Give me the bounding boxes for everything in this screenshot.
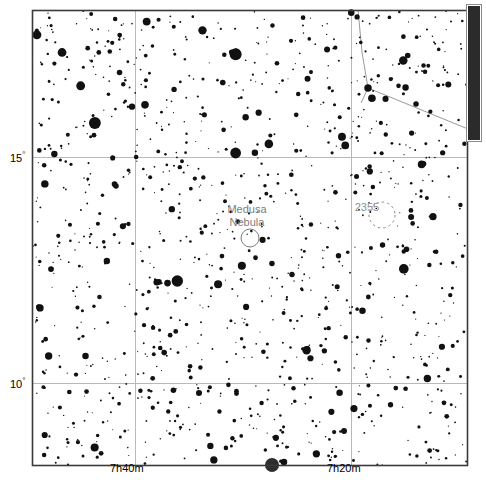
star-marker [34,244,37,247]
star-marker [293,399,296,402]
star-marker [460,43,462,45]
star-marker [182,424,184,426]
star-marker [309,277,310,278]
star-marker [147,307,149,309]
star-marker [39,123,41,125]
star-marker [140,251,141,252]
star-marker [305,155,307,157]
star-marker [50,24,53,27]
star-marker [43,372,45,374]
star-marker [306,91,310,95]
star-marker [75,296,76,297]
star-marker [389,77,393,81]
star-marker [415,193,417,195]
star-marker [123,38,124,39]
star-marker [328,301,329,302]
star-marker [434,16,436,18]
star-marker [134,155,139,160]
star-marker [276,403,278,405]
star-marker [57,456,60,459]
star-marker [337,368,341,372]
star-marker [166,355,168,357]
star-marker [119,37,121,39]
star-marker [366,383,370,387]
star-marker [389,376,390,377]
star-marker [76,286,78,288]
star-marker [269,118,271,120]
star-marker [371,185,376,190]
star-marker [237,295,239,297]
star-marker [115,358,116,359]
star-marker [45,352,52,359]
sky-map-canvas[interactable]: MedusaNebula2355 [0,0,486,485]
star-marker [368,404,372,408]
star-marker [340,325,341,326]
star-marker [187,288,188,289]
star-marker [193,176,197,180]
star-marker [282,442,284,444]
star-marker [83,177,85,179]
star-marker [385,260,387,262]
star-marker [184,151,187,154]
star-marker [51,151,57,157]
star-marker [111,116,113,118]
star-marker [96,41,98,43]
star-marker [428,156,430,158]
star-marker [272,319,274,321]
star-marker [169,206,175,212]
star-marker [432,353,433,354]
star-marker [200,231,204,235]
star-marker [338,260,340,262]
star-marker [449,315,450,316]
star-marker [402,84,408,90]
star-marker [87,282,88,283]
star-marker [455,454,456,455]
star-marker [349,312,352,315]
star-marker [235,142,237,144]
star-marker [377,46,380,49]
star-marker [267,389,269,391]
star-marker [154,278,156,280]
vertical-scrollbar-thumb[interactable] [468,6,480,140]
star-marker [364,50,366,52]
star-marker [340,148,341,149]
star-marker [118,38,121,41]
star-marker [261,349,266,354]
star-marker [445,82,451,88]
star-marker [179,319,181,321]
star-marker [40,123,43,126]
star-marker [425,196,429,200]
star-marker [144,78,148,82]
star-marker [380,340,383,343]
dso-label-line-1: Medusa [227,203,267,215]
star-marker [444,319,445,320]
star-marker [301,224,303,226]
star-marker [141,29,143,31]
star-marker [395,183,396,184]
star-marker [142,188,145,191]
star-marker [335,386,337,388]
star-marker [256,143,258,145]
star-marker [144,113,145,114]
star-marker [362,170,363,171]
star-marker [392,64,393,65]
star-marker [163,171,164,172]
star-marker [184,297,186,299]
star-marker [385,49,387,51]
star-marker [107,40,110,43]
star-marker [417,425,420,428]
star-marker [350,175,351,176]
star-marker [445,145,448,148]
star-marker [391,142,394,145]
star-marker [448,175,450,177]
star-marker [44,148,46,150]
star-marker [65,220,67,222]
star-marker [164,280,171,287]
star-marker [310,290,311,291]
star-marker [415,35,419,39]
star-marker [156,366,158,368]
star-marker [197,387,199,389]
star-marker [373,81,374,82]
star-marker [419,195,422,198]
star-marker [332,430,336,434]
